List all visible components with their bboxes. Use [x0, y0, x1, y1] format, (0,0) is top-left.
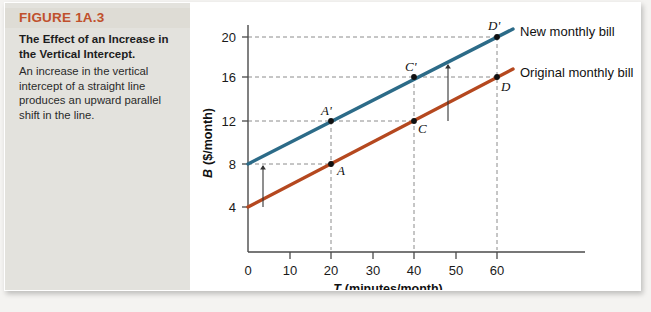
x-axis-title-units: (minutes/month): [345, 282, 443, 290]
point-label-d-prime: D': [487, 18, 500, 33]
y-axis-tick-labels: 20 16 12 8 4: [222, 30, 236, 215]
x-tick-label-0: 0: [244, 263, 251, 278]
x-tick-label-40: 40: [407, 263, 421, 278]
y-axis-title: B($/month): [201, 108, 215, 178]
point-label-a-prime: A': [320, 103, 332, 118]
x-axis-title: T(minutes/month): [333, 282, 443, 290]
y-axis-ticks: [242, 37, 248, 207]
point-label-c-prime: C': [405, 59, 417, 74]
chart-area: 20 16 12 8 4 0 10 20 30 40 50: [190, 3, 641, 290]
x-tick-label-20: 20: [324, 263, 338, 278]
x-axis-title-symbol: T: [333, 282, 342, 290]
y-axis-title-units: ($/month): [201, 108, 215, 165]
figure-caption-body: An increase in the vertical intercept of…: [19, 64, 179, 122]
caption-panel: FIGURE 1A.3 The Effect of an Increase in…: [5, 3, 190, 290]
data-point-d: [494, 74, 500, 80]
data-point-a-prime: [328, 118, 334, 124]
data-point-c: [411, 118, 417, 124]
data-point-c-prime: [411, 74, 417, 80]
point-label-a: A: [336, 163, 345, 178]
y-tick-label-4: 4: [229, 200, 236, 215]
x-tick-label-10: 10: [283, 263, 297, 278]
y-axis-title-symbol: B: [201, 169, 215, 178]
y-tick-label-20: 20: [222, 30, 236, 45]
y-tick-label-8: 8: [229, 157, 236, 172]
series-line-original-monthly-bill: [248, 69, 513, 207]
point-label-d: D: [500, 79, 511, 94]
series-label-new-monthly-bill: New monthly bill: [520, 24, 615, 39]
x-axis-ticks: [290, 252, 497, 259]
data-point-d-prime: [494, 34, 500, 40]
series-label-original-monthly-bill: Original monthly bill: [520, 65, 634, 80]
x-tick-label-50: 50: [449, 263, 463, 278]
data-point-a: [328, 161, 334, 167]
figure-caption-title: The Effect of an Increase in the Vertica…: [19, 32, 177, 61]
x-tick-label-30: 30: [366, 263, 380, 278]
series-line-new-monthly-bill: [248, 29, 513, 164]
figure-root: FIGURE 1A.3 The Effect of an Increase in…: [0, 0, 651, 312]
y-tick-label-16: 16: [222, 70, 236, 85]
point-label-c: C: [418, 121, 427, 136]
line-chart-svg: 20 16 12 8 4 0 10 20 30 40 50: [190, 3, 641, 290]
x-axis-tick-labels: 0 10 20 30 40 50 60: [244, 263, 504, 278]
x-tick-label-60: 60: [490, 263, 504, 278]
y-tick-label-12: 12: [222, 114, 236, 129]
figure-number-label: FIGURE 1A.3: [19, 10, 104, 25]
